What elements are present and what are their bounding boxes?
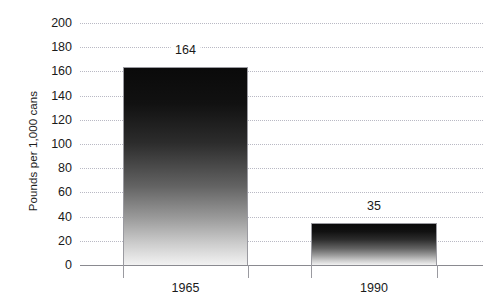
y-tick-label: 20 [8, 234, 80, 248]
x-axis-tick [123, 265, 124, 278]
x-axis-tick [311, 265, 312, 278]
x-axis-label-1990: 1990 [360, 281, 388, 295]
bar-value-label-1990: 35 [362, 199, 386, 213]
y-tick-label: 60 [8, 185, 80, 199]
y-tick-label: 40 [8, 210, 80, 224]
x-axis-tick [248, 265, 249, 278]
y-tick-label: 100 [8, 137, 80, 151]
y-tick-label: 0 [8, 258, 80, 272]
y-tick-label: 140 [8, 89, 80, 103]
x-axis-label-1965: 1965 [172, 281, 200, 295]
y-tick-label: 120 [8, 113, 80, 127]
y-tick-label: 80 [8, 161, 80, 175]
gridline [80, 47, 483, 49]
y-tick-label: 160 [8, 64, 80, 78]
bar-value-label-1965: 164 [170, 43, 201, 57]
x-axis-tick [437, 265, 438, 278]
gridline [80, 23, 483, 25]
bar-chart: Pounds per 1,000 cans 200180160140120100… [0, 0, 504, 302]
x-axis: 19651990 [80, 265, 483, 302]
y-tick-label: 200 [8, 16, 80, 30]
bar-1990[interactable] [311, 223, 437, 265]
y-tick-label: 180 [8, 40, 80, 54]
bar-1965[interactable] [123, 67, 248, 265]
plot-area: 200180160140120100806040200 16435 [80, 23, 483, 265]
